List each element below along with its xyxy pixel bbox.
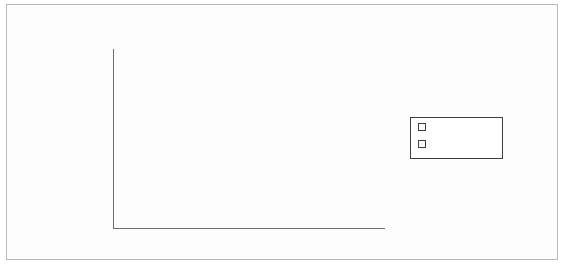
- y-axis-line: [113, 49, 114, 229]
- chart-legend: [410, 117, 503, 159]
- chart-screenshot: [0, 0, 566, 267]
- legend-item-sarc: [418, 123, 432, 131]
- legend-item-friends: [418, 140, 432, 148]
- legend-swatch-sarc: [418, 123, 426, 131]
- legend-swatch-friends: [418, 140, 426, 148]
- plot-area: [113, 49, 385, 228]
- x-axis-line: [113, 228, 385, 229]
